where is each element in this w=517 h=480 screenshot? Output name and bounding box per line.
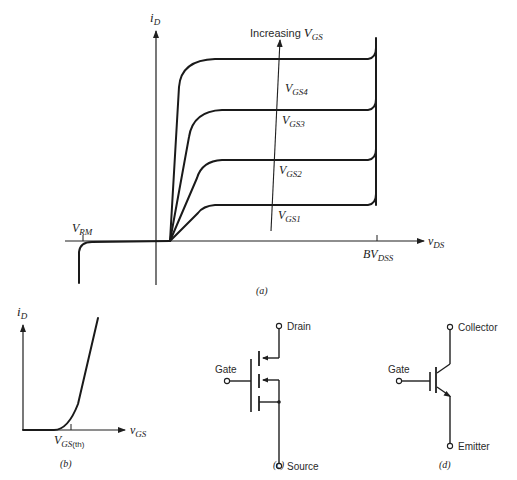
curve-vgs1 xyxy=(170,194,376,241)
gate-label-c: Gate xyxy=(215,364,237,375)
label-vgs4: VGS4 xyxy=(285,81,308,97)
label-vgs2: VGS2 xyxy=(279,163,302,179)
panel-a-x-axis-label: vDS xyxy=(428,234,445,250)
collector-label: Collector xyxy=(458,322,498,333)
label-vgs1: VGS1 xyxy=(278,208,301,224)
panel-b-x-axis-label: vGS xyxy=(130,423,147,439)
panel-a-y-axis-label: iD xyxy=(150,10,161,27)
emitter-label: Emitter xyxy=(458,441,490,452)
body-arrow-icon xyxy=(262,378,268,383)
source-label: Source xyxy=(287,461,319,472)
panel-c-igbt-mosfet-symbol: Drain Gate Source xyxy=(215,321,319,472)
igbt-characteristics-figure: iD vDS VRM BVDSS Increasing VGS VGS4 xyxy=(0,0,517,480)
increasing-vgs-label: Increasing VGS xyxy=(250,25,323,42)
gate-label-d: Gate xyxy=(388,364,410,375)
panel-b-y-axis-label: iD xyxy=(17,304,28,321)
drain-label: Drain xyxy=(287,321,311,332)
emitter-terminal xyxy=(447,443,452,448)
drain-arrow-icon xyxy=(262,356,268,361)
panel-a-caption: (a) xyxy=(256,285,268,297)
vrm-label: VRM xyxy=(72,221,93,237)
curve-vgs4 xyxy=(170,48,376,241)
panel-d-caption: (d) xyxy=(439,459,451,470)
panel-d-igbt-bjt-symbol: Collector Gate Emitter xyxy=(388,322,498,452)
bvdss-label: BVDSS xyxy=(363,247,394,263)
gate-terminal-d xyxy=(396,378,401,383)
panel-b-transfer-characteristic: iD vGS VGS(th) (b) xyxy=(17,304,147,470)
panel-c-caption: (c) xyxy=(273,459,284,470)
threshold-label: VGS(th) xyxy=(54,433,85,449)
drain-terminal xyxy=(276,323,281,328)
gate-terminal-c xyxy=(224,378,229,383)
panel-a-output-characteristics: iD vDS VRM BVDSS Increasing VGS VGS4 xyxy=(65,10,445,297)
panel-b-caption: (b) xyxy=(60,458,72,470)
increasing-vgs-arrow xyxy=(271,40,280,231)
label-vgs3: VGS3 xyxy=(282,113,305,129)
transfer-curve xyxy=(23,318,98,430)
collector-terminal xyxy=(447,324,452,329)
